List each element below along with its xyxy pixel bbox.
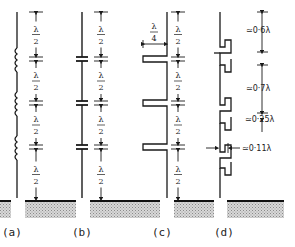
panel-label-c: (c) xyxy=(152,226,172,239)
half-wave-num: λ xyxy=(33,25,38,34)
half-wave-den: 2 xyxy=(175,37,180,46)
half-wave-den: 2 xyxy=(175,83,180,92)
antenna-a xyxy=(15,12,17,198)
stub-label-den: 4 xyxy=(151,34,156,43)
half-wave-den: 2 xyxy=(98,177,103,186)
ground-planes xyxy=(0,201,284,218)
half-wave-num: λ xyxy=(98,165,103,174)
half-wave-num: λ xyxy=(98,25,103,34)
panel-label-a: (a) xyxy=(2,226,22,239)
panel-label-b: (b) xyxy=(72,226,92,239)
dim-d-3: ≃0·11λ xyxy=(242,144,272,153)
stub-dimension-c: λ 4 xyxy=(143,22,166,48)
half-wave-num: λ xyxy=(175,25,180,34)
stub-label-num: λ xyxy=(151,22,156,31)
antenna-d xyxy=(214,12,231,198)
half-wave-den: 2 xyxy=(175,127,180,136)
half-wave-den: 2 xyxy=(175,177,180,186)
half-wave-den: 2 xyxy=(33,177,38,186)
dim-d-1: ≃0·7λ xyxy=(246,84,270,93)
half-wave-num: λ xyxy=(98,115,103,124)
half-wave-num: λ xyxy=(175,115,180,124)
half-wave-den: 2 xyxy=(98,127,103,136)
antenna-diagram: λ 4 ≃0·6λ ≃0·7λ ≃0·25λ ≃0·11λ λ2λ2λ2λ2λ2… xyxy=(0,0,295,247)
half-wave-den: 2 xyxy=(98,37,103,46)
half-wave-num: λ xyxy=(33,165,38,174)
dim-d-0: ≃0·6λ xyxy=(246,26,270,35)
half-wave-den: 2 xyxy=(33,37,38,46)
half-wave-num: λ xyxy=(175,165,180,174)
half-wave-num: λ xyxy=(33,115,38,124)
half-wave-num: λ xyxy=(33,71,38,80)
panel-label-d: (d) xyxy=(214,226,234,239)
half-wave-num: λ xyxy=(98,71,103,80)
half-wave-den: 2 xyxy=(33,83,38,92)
half-wave-den: 2 xyxy=(98,83,103,92)
antenna-b xyxy=(76,12,88,198)
half-wave-den: 2 xyxy=(33,127,38,136)
dim-d-2: ≃0·25λ xyxy=(245,115,275,124)
half-wave-num: λ xyxy=(175,71,180,80)
